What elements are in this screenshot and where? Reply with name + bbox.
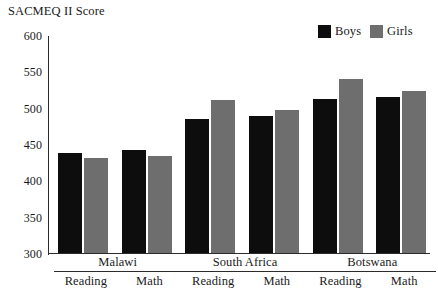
plot-area: 600550500450400350300 [48, 36, 430, 254]
bar-south-africa-reading-boys [185, 119, 209, 253]
y-axis-title: SACMEQ II Score [8, 4, 105, 19]
x-axis-line [48, 253, 430, 254]
y-axis-tick-400: 400 [24, 174, 42, 189]
bar-botswana-math-boys [376, 97, 400, 253]
x-group-subs: ReadingMath [54, 274, 181, 289]
bar-south-africa-math-boys [249, 116, 273, 253]
x-axis-labels: MalawiReadingMathSouth AfricaReadingMath… [48, 255, 430, 301]
x-sub-label-math: Math [118, 274, 182, 289]
x-group-name: Malawi [54, 255, 181, 272]
x-sub-label-reading: Reading [54, 274, 118, 289]
x-group-south-africa: South AfricaReadingMath [181, 255, 308, 289]
x-sub-label-math: Math [245, 274, 309, 289]
bar-malawi-math-boys [122, 150, 146, 253]
x-group-malawi: MalawiReadingMath [54, 255, 181, 289]
x-group-name: Botswana [309, 255, 436, 272]
x-group-subs: ReadingMath [181, 274, 308, 289]
bar-botswana-math-girls [402, 91, 426, 253]
x-sub-label-reading: Reading [309, 274, 373, 289]
x-group-name: South Africa [181, 255, 308, 272]
x-sub-label-reading: Reading [181, 274, 245, 289]
y-axis-tick-450: 450 [24, 138, 42, 153]
bar-botswana-reading-girls [339, 79, 363, 253]
bar-south-africa-math-girls [275, 110, 299, 253]
bar-malawi-math-girls [148, 156, 172, 253]
chart-figure: SACMEQ II Score Boys Girls 6005505004504… [0, 0, 438, 301]
y-axis-tick-550: 550 [24, 65, 42, 80]
y-axis-tick-500: 500 [24, 101, 42, 116]
x-group-botswana: BotswanaReadingMath [309, 255, 436, 289]
y-axis-tick-300: 300 [24, 247, 42, 262]
bar-malawi-reading-girls [84, 158, 108, 253]
y-axis-tick-350: 350 [24, 210, 42, 225]
bar-malawi-reading-boys [58, 153, 82, 253]
x-sub-label-math: Math [372, 274, 436, 289]
bar-botswana-reading-boys [313, 99, 337, 253]
y-axis-tick-600: 600 [24, 29, 42, 44]
bar-south-africa-reading-girls [211, 100, 235, 253]
x-group-subs: ReadingMath [309, 274, 436, 289]
y-axis-line [48, 36, 49, 255]
